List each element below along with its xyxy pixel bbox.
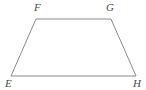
trapezoid-svg — [0, 0, 146, 90]
vertex-label-g: G — [106, 2, 114, 13]
trapezoid-outline — [11, 19, 136, 76]
vertex-label-e: E — [5, 78, 12, 89]
vertex-label-h: H — [133, 78, 141, 89]
geometry-figure-container: F G H E — [0, 0, 146, 90]
vertex-label-f: F — [34, 2, 41, 13]
